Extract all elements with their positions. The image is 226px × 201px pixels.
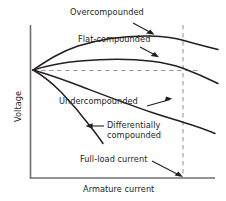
- label-flat-compounded: Flat-compounded: [78, 35, 150, 45]
- label-undercompounded: Undercompounded: [59, 97, 138, 107]
- label-overcompounded: Overcompounded: [70, 8, 144, 18]
- label-full-load-current: Full-load current: [80, 155, 147, 165]
- flat-compounded-leader-arrow: [140, 47, 159, 57]
- label-compounded: compounded: [107, 131, 161, 141]
- y-axis-label: Voltage: [14, 91, 24, 122]
- curve-flat-compounded: [33, 59, 218, 83]
- undercompounded-leader-arrow: [147, 96, 172, 106]
- figure-dc-generator-characteristics: Overcompounded Flat-compounded Undercomp…: [0, 0, 226, 201]
- full-load-current-leader-arrow: [152, 161, 183, 177]
- x-axis-label: Armature current: [83, 185, 154, 195]
